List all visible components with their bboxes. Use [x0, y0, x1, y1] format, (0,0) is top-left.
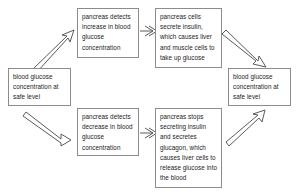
node-label: pancreas stops secreting insulin and sec…: [160, 112, 217, 183]
flowchart-diagram: blood glucose concentration at safe leve…: [0, 0, 299, 194]
arrow-safe-left-to-detect-increase: [32, 30, 74, 73]
arrow-safe-left-to-detect-decrease: [23, 112, 71, 146]
node-blood-glucose-safe-level-left: blood glucose concentration at safe leve…: [8, 68, 71, 106]
node-label: blood glucose concentration at safe leve…: [233, 72, 286, 103]
node-label: pancreas detects decrease in blood gluco…: [82, 112, 134, 153]
node-label: pancreas detects increase in blood gluco…: [82, 12, 134, 53]
arrow-stop-to-safe-right: [226, 110, 265, 146]
node-pancreas-stops-secreting-insulin: pancreas stops secreting insulin and sec…: [155, 108, 222, 188]
node-blood-glucose-safe-level-right: blood glucose concentration at safe leve…: [228, 68, 291, 106]
arrow-secrete-to-safe-right: [222, 30, 266, 67]
node-pancreas-detects-decrease: pancreas detects decrease in blood gluco…: [77, 108, 139, 156]
node-label: blood glucose concentration at safe leve…: [13, 72, 66, 103]
node-pancreas-secretes-insulin: pancreas cells secrete insulin, which ca…: [155, 8, 222, 68]
node-label: pancreas cells secrete insulin, which ca…: [160, 12, 217, 63]
node-pancreas-detects-increase: pancreas detects increase in blood gluco…: [77, 8, 139, 58]
